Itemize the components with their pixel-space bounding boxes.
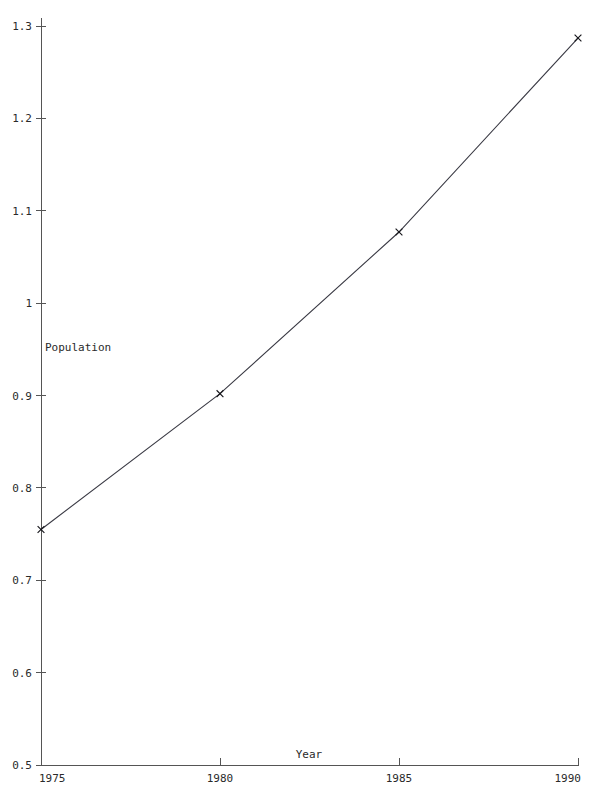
x-axis-title: Year <box>296 748 323 761</box>
x-tick-label: 1980 <box>207 772 234 785</box>
y-tick-label: 0.9 <box>12 390 32 403</box>
y-tick-label: 0.5 <box>12 759 32 772</box>
x-tick-label: 1975 <box>39 772 66 785</box>
y-tick-label: 0.7 <box>12 574 32 587</box>
data-point-marker <box>396 229 403 236</box>
y-tick-label: 0.6 <box>12 667 32 680</box>
chart-container: 0.50.60.70.80.911.11.21.3 19751980198519… <box>0 0 595 796</box>
y-axis-title: Population <box>45 341 111 354</box>
line-chart-plot: 0.50.60.70.80.911.11.21.3 19751980198519… <box>0 0 595 796</box>
x-tick-label: 1990 <box>555 772 582 785</box>
y-tick-label: 1.3 <box>12 20 32 33</box>
data-series <box>41 38 578 529</box>
y-tick-label: 1 <box>25 297 32 310</box>
x-axis-ticks: 1975198019851990 <box>39 758 581 785</box>
data-point-marker <box>217 390 224 397</box>
y-tick-label: 0.8 <box>12 482 32 495</box>
y-tick-label: 1.1 <box>12 205 32 218</box>
series-line-population <box>41 38 578 529</box>
data-point-marker <box>575 35 582 42</box>
x-tick-label: 1985 <box>386 772 413 785</box>
y-tick-label: 1.2 <box>12 112 32 125</box>
axes <box>41 18 578 765</box>
data-point-markers <box>38 35 582 533</box>
